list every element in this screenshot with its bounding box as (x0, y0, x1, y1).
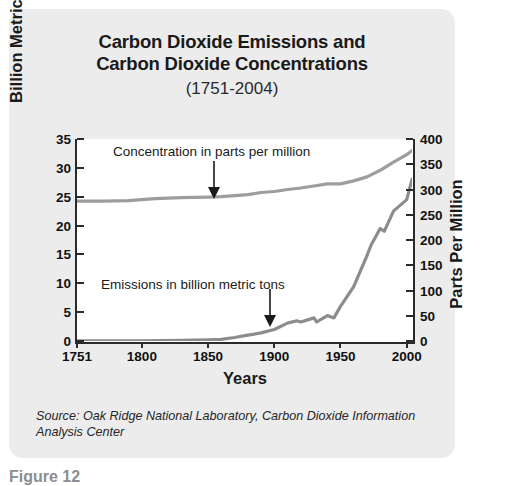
x-axis-tick-label: 1800 (127, 349, 157, 364)
y-axis-right-tick-label: 150 (420, 258, 443, 273)
y-axis-right-tickmark (406, 239, 413, 241)
y-axis-left-tickmark (77, 196, 84, 198)
x-axis-tick-label: 1850 (193, 349, 223, 364)
chart-subtitle: (1751-2004) (9, 77, 455, 100)
y-axis-right-tick-label: 100 (420, 283, 443, 298)
emissions-line (77, 179, 412, 341)
y-axis-left-tick-label: 25 (56, 189, 71, 204)
x-axis-tickmark (339, 342, 341, 348)
concentration-annotation-label: Concentration in parts per million (113, 144, 310, 159)
y-axis-left-title: Billion Metric Tons CO2 (7, 0, 28, 127)
x-axis-tickmark (406, 342, 408, 348)
y-axis-right-tick-label: 200 (420, 233, 443, 248)
y-axis-right-title: Parts Per Million (447, 139, 466, 349)
x-axis-tickmark (273, 342, 275, 348)
plot-area: 05101520253035 050100150200250300350400 … (75, 139, 415, 344)
x-axis-title: Years (75, 369, 415, 388)
figure-caption: Figure 12 (9, 468, 80, 486)
y-axis-left-tickmark (77, 340, 84, 342)
y-axis-left-tickmark (77, 311, 84, 313)
x-axis-tickmark (207, 342, 209, 348)
chart-svg (77, 139, 412, 341)
y-axis-left-tickmark (77, 167, 84, 169)
y-axis-right-tickmark (406, 315, 413, 317)
y-axis-right-tickmark (406, 290, 413, 292)
y-axis-right-tickmark (406, 264, 413, 266)
emissions-annotation-label: Emissions in billion metric tons (101, 277, 285, 292)
x-axis-tickmark (76, 342, 78, 348)
y-axis-right-tickmark (406, 189, 413, 191)
chart-title-block: Carbon Dioxide Emissions and Carbon Diox… (9, 31, 455, 100)
y-axis-left-tickmark (77, 225, 84, 227)
y-axis-left-tickmark (77, 138, 84, 140)
concentration-arrow (208, 161, 220, 199)
y-axis-left-tick-label: 5 (63, 305, 71, 320)
x-axis-tick-label: 1900 (259, 349, 289, 364)
y-axis-right-tick-label: 0 (420, 334, 428, 349)
y-axis-right-tick-label: 250 (420, 207, 443, 222)
y-axis-left-title-text: Billion Metric Tons CO (7, 0, 25, 103)
y-axis-right-tickmark (406, 163, 413, 165)
y-axis-left-tickmark (77, 282, 84, 284)
y-axis-left-tick-label: 35 (56, 132, 71, 147)
y-axis-right-tick-label: 350 (420, 157, 443, 172)
y-axis-left-tick-label: 30 (56, 160, 71, 175)
y-axis-right-tick-label: 50 (420, 308, 435, 323)
y-axis-left-tick-label: 15 (56, 247, 71, 262)
x-axis-tickmark (141, 342, 143, 348)
y-axis-left-tick-label: 10 (56, 276, 71, 291)
y-axis-right-tick-label: 300 (420, 182, 443, 197)
chart-title-line-2: Carbon Dioxide Concentrations (9, 53, 455, 75)
source-note: Source: Oak Ridge National Laboratory, C… (36, 408, 436, 440)
y-axis-right-tick-label: 400 (420, 132, 443, 147)
y-axis-left-tickmark (77, 253, 84, 255)
chart-title-line-1: Carbon Dioxide Emissions and (9, 31, 455, 53)
x-axis-tick-label: 1950 (325, 349, 355, 364)
x-axis-tick-label: 2000 (392, 349, 422, 364)
y-axis-left-tick-label: 0 (63, 334, 71, 349)
y-axis-left-tick-label: 20 (56, 218, 71, 233)
y-axis-right-tickmark (406, 214, 413, 216)
x-axis-tick-label: 1751 (62, 349, 92, 364)
figure-panel: Carbon Dioxide Emissions and Carbon Diox… (9, 9, 455, 458)
y-axis-right-tickmark (406, 138, 413, 140)
emissions-arrow (264, 289, 276, 327)
